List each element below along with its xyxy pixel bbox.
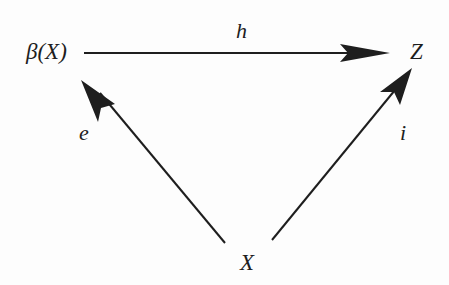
node-beta-x: β(X) bbox=[26, 40, 67, 63]
node-z: Z bbox=[410, 40, 423, 63]
edge-label-i: i bbox=[400, 122, 406, 144]
edge-label-h: h bbox=[236, 20, 247, 42]
arrow-i bbox=[272, 68, 412, 240]
arrow-h bbox=[84, 44, 390, 62]
edge-label-e: e bbox=[79, 122, 89, 144]
arrows-layer bbox=[0, 0, 449, 285]
node-x: X bbox=[240, 251, 254, 274]
arrow-e bbox=[81, 80, 225, 243]
diagram-canvas: β(X) Z X h e i bbox=[0, 0, 449, 285]
